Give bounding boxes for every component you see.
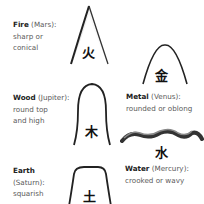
- fire-name: Fire: [13, 20, 29, 29]
- wood-desc-1: round top: [13, 104, 69, 116]
- fire-label: Fire (Mars): sharp or conical: [13, 19, 56, 54]
- metal-planet: (Venus):: [151, 92, 181, 101]
- metal-glyph: 金: [155, 69, 168, 82]
- earth-desc-1: squarish: [13, 188, 45, 200]
- wood-name: Wood: [13, 93, 36, 102]
- earth-name: Earth: [13, 166, 35, 175]
- earth-planet: (Saturn):: [13, 177, 45, 189]
- water-name: Water: [125, 164, 149, 173]
- water-planet: (Mercury):: [152, 164, 189, 173]
- fire-desc-1: sharp or: [13, 31, 56, 43]
- fire-desc-2: conical: [13, 42, 56, 54]
- wood-desc-2: and high: [13, 115, 69, 127]
- fire-planet: (Mars):: [31, 20, 56, 29]
- earth-label: Earth (Saturn): squarish: [13, 165, 45, 200]
- water-desc-1: crooked or wavy: [125, 175, 189, 187]
- earth-glyph: 土: [83, 190, 96, 203]
- wood-label: Wood (Jupiter): round top and high: [13, 92, 69, 127]
- metal-desc-1: rounded or oblong: [126, 103, 192, 115]
- fire-glyph: 火: [82, 46, 95, 59]
- metal-label: Metal (Venus): rounded or oblong: [126, 91, 192, 114]
- wood-planet: (Jupiter):: [38, 93, 69, 102]
- metal-name: Metal: [126, 92, 149, 101]
- wood-glyph: 木: [85, 125, 98, 138]
- water-glyph: 水: [155, 146, 168, 159]
- water-label: Water (Mercury): crooked or wavy: [125, 163, 189, 186]
- water-mountain-icon: [120, 127, 204, 145]
